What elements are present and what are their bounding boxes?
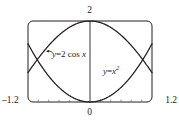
x-max-label: 1.2 (165, 96, 177, 106)
cosine-curve-label: y=2 cos x (52, 50, 86, 59)
x-min-label: –1.2 (2, 96, 19, 106)
cosine-label-function: cos (68, 49, 80, 59)
y-max-label: 2 (0, 6, 179, 16)
origin-label: 0 (0, 108, 179, 118)
cosine-label-coefficient: 2 (61, 49, 66, 59)
graphing-window-figure: 2 0 –1.2 1.2 y=2 cos x y=x2 (0, 0, 179, 126)
parabola-label-exponent: 2 (116, 64, 119, 71)
parabola-curve-label: y=x2 (103, 67, 119, 76)
cosine-label-variable: x (82, 49, 86, 59)
